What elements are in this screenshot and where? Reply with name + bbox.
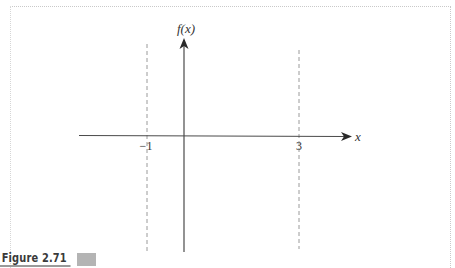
x-axis xyxy=(79,136,346,137)
figure-caption-text: Figure 2.71 xyxy=(0,251,70,267)
tick-label-neg1: −1 xyxy=(140,139,153,153)
x-axis-label: x xyxy=(354,129,361,144)
caption-swatch xyxy=(77,253,96,266)
figure-caption: Figure 2.71 xyxy=(0,250,86,268)
tick-label-3: 3 xyxy=(296,139,302,153)
axes-diagram: f(x) x −1 3 xyxy=(0,0,455,268)
y-axis-label: f(x) xyxy=(177,21,195,36)
